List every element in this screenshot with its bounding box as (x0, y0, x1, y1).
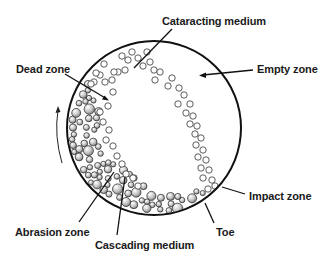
leader-toe (205, 203, 214, 223)
label-abrasion-zone: Abrasion zone (15, 226, 90, 238)
label-impact-zone: Impact zone (249, 190, 311, 202)
ball-mill-diagram: Cataracting medium Empty zone Dead zone … (0, 0, 327, 266)
leader-empty-zone (203, 70, 253, 75)
rotation-arrow-icon (56, 106, 63, 163)
leader-impact-zone (222, 187, 245, 194)
empty-zone-arrowhead-icon (199, 73, 206, 79)
charge-mass (69, 80, 205, 213)
label-cascading-medium: Cascading medium (95, 239, 194, 251)
label-cataracting-medium: Cataracting medium (162, 15, 266, 27)
label-empty-zone: Empty zone (257, 63, 318, 75)
label-dead-zone: Dead zone (16, 63, 70, 75)
label-toe: Toe (216, 226, 234, 238)
